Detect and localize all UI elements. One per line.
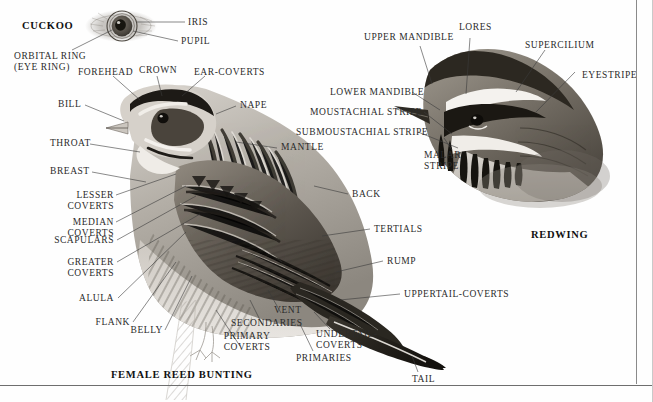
label-primaries: PRIMARIES <box>296 353 352 364</box>
label-bill: BILL <box>58 99 81 110</box>
label-lores: LORES <box>459 22 492 33</box>
label-back: BACK <box>352 189 381 200</box>
label-lesser-coverts: LESSER COVERTS <box>44 190 114 211</box>
label-breast: BREAST <box>50 166 90 177</box>
label-secondaries: SECONDARIES <box>231 318 303 329</box>
bottom-rule <box>0 385 653 386</box>
cuckoo-eye-artwork <box>85 10 157 42</box>
label-submoustachial-stripe: SUBMOUSTACHIAL STRIPE <box>296 127 416 138</box>
label-lower-mandible: LOWER MANDIBLE <box>330 87 412 98</box>
label-moustachial-stripe: MOUSTACHIAL STRIPE <box>310 107 414 118</box>
label-pupil: PUPIL <box>181 36 210 47</box>
label-undertail-coverts: UNDERTAIL- COVERTS <box>316 329 378 350</box>
label-alula: ALULA <box>62 293 114 304</box>
label-malar-stripe: MALAR STRIPE <box>424 150 461 171</box>
label-tertials: TERTIALS <box>374 224 423 235</box>
label-eyestripe: EYESTRIPE <box>582 70 637 81</box>
caption-female-reed-bunting: FEMALE REED BUNTING <box>111 369 253 380</box>
label-vent: VENT <box>274 305 302 316</box>
label-throat: THROAT <box>50 138 91 149</box>
label-crown: CROWN <box>139 65 177 76</box>
label-scapulars: SCAPULARS <box>38 235 114 246</box>
label-mantle: MANTLE <box>281 142 324 153</box>
label-supercilium: SUPERCILIUM <box>525 40 594 51</box>
label-greater-coverts: GREATER COVERTS <box>40 257 114 278</box>
label-ear-coverts: EAR-COVERTS <box>194 67 265 78</box>
label-forehead: FOREHEAD <box>78 67 133 78</box>
caption-redwing: REDWING <box>531 229 588 240</box>
label-primary-coverts: PRIMARY COVERTS <box>216 331 278 352</box>
label-nape: NAPE <box>240 100 267 111</box>
label-rump: RUMP <box>387 256 416 267</box>
label-upper-mandible: UPPER MANDIBLE <box>364 32 454 43</box>
right-rule <box>636 0 637 384</box>
caption-cuckoo: CUCKOO <box>22 20 73 31</box>
label-iris: IRIS <box>188 17 208 28</box>
bird-topography-figure: CUCKOO IRIS PUPIL ORBITAL RING (EYE RING… <box>0 0 653 402</box>
label-tail: TAIL <box>412 374 435 385</box>
label-belly: BELLY <box>118 325 163 336</box>
label-orbital-ring: ORBITAL RING (EYE RING) <box>14 51 86 72</box>
label-uppertail-coverts: UPPERTAIL-COVERTS <box>404 289 509 300</box>
